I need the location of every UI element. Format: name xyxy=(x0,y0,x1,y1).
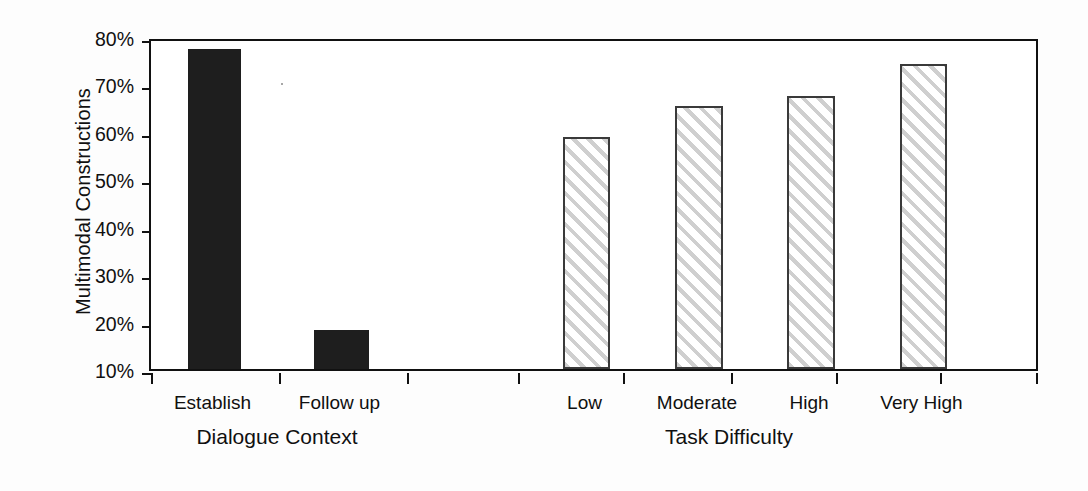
bar-moderate xyxy=(675,106,723,369)
bar-follow-up xyxy=(314,330,369,369)
y-tick-mark-70 xyxy=(142,88,151,90)
x-tick-mark-1 xyxy=(279,373,281,384)
y-tick-label-50: 50% xyxy=(64,170,134,193)
y-tick-label-10: 10% xyxy=(64,360,134,383)
bar-chart-figure: Multimodal Constructions 10% 20% 30% 40%… xyxy=(0,0,1088,491)
x-tick-mark-8 xyxy=(1036,373,1038,384)
y-tick-label-80: 80% xyxy=(64,28,134,51)
y-axis-tick-labels: 10% 20% 30% 40% 50% 60% 70% 80% xyxy=(58,0,134,491)
x-tick-label-very-high: Very High xyxy=(880,392,962,414)
x-tick-mark-4 xyxy=(623,373,625,384)
y-tick-label-40: 40% xyxy=(64,217,134,240)
y-tick-mark-10 xyxy=(142,373,151,375)
x-tick-mark-3 xyxy=(518,373,520,384)
y-tick-mark-30 xyxy=(142,278,151,280)
y-tick-label-20: 20% xyxy=(64,312,134,335)
y-tick-mark-50 xyxy=(142,183,151,185)
x-tick-label-low: Low xyxy=(567,392,602,414)
y-tick-mark-40 xyxy=(142,231,151,233)
group-label-task-difficulty: Task Difficulty xyxy=(665,425,793,449)
y-tick-mark-80 xyxy=(142,41,151,43)
x-tick-label-high: High xyxy=(789,392,828,414)
bar-high xyxy=(787,96,835,369)
plot-area xyxy=(149,39,1038,371)
y-tick-label-30: 30% xyxy=(64,265,134,288)
bar-establish xyxy=(188,49,241,369)
y-tick-mark-60 xyxy=(142,136,151,138)
y-tick-mark-20 xyxy=(142,326,151,328)
x-tick-label-establish: Establish xyxy=(174,392,251,414)
y-tick-label-60: 60% xyxy=(64,122,134,145)
y-tick-label-70: 70% xyxy=(64,75,134,98)
bar-low xyxy=(563,137,610,369)
group-label-dialogue-context: Dialogue Context xyxy=(196,425,357,449)
x-tick-mark-2 xyxy=(407,373,409,384)
x-tick-mark-6 xyxy=(836,373,838,384)
x-tick-label-moderate: Moderate xyxy=(657,392,737,414)
bar-very-high xyxy=(900,64,947,369)
x-tick-mark-0 xyxy=(151,373,153,384)
x-tick-mark-5 xyxy=(731,373,733,384)
x-tick-mark-7 xyxy=(940,373,942,384)
x-tick-label-follow-up: Follow up xyxy=(299,392,380,414)
scan-speck xyxy=(281,83,283,85)
